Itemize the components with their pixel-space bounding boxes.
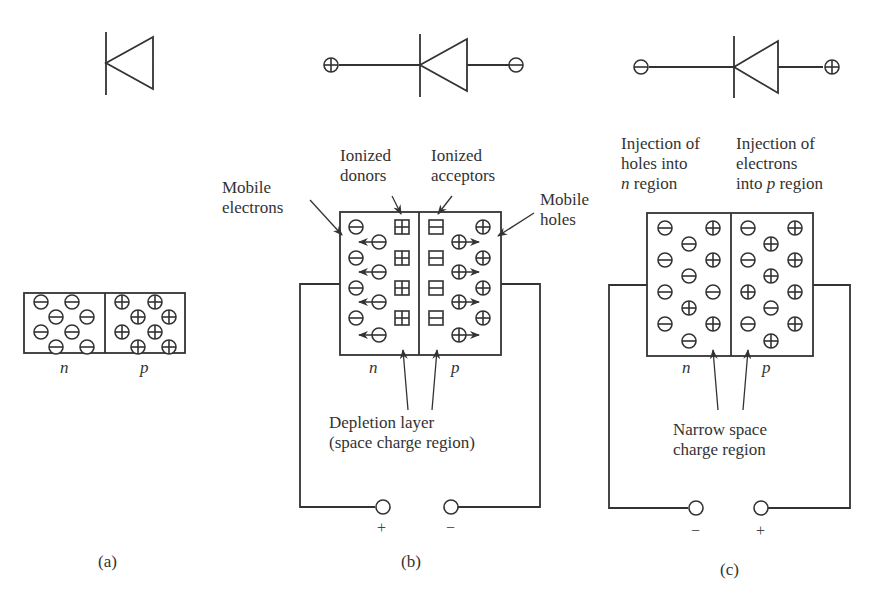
caption-c: (c) (720, 560, 739, 580)
p-region-label-c: p (762, 358, 771, 378)
ionized-acceptors-label: Ionized acceptors (431, 146, 495, 186)
negative-terminal-icon (509, 58, 523, 72)
junction-c (609, 213, 850, 515)
n-region-label-b: n (369, 358, 378, 378)
n-region-label-c: n (682, 358, 691, 378)
junction-a (24, 293, 185, 354)
supply-minus-c: − (691, 522, 700, 540)
caption-a: (a) (98, 552, 117, 572)
diode-symbol-c (649, 36, 823, 98)
mobile-holes-label: Mobile holes (540, 190, 589, 230)
depletion-layer-label: Depletion layer (space charge region) (329, 413, 475, 453)
supply-plus-c: + (756, 522, 765, 540)
junction-b (300, 196, 540, 514)
supply-minus-b: − (446, 519, 455, 537)
diode-symbol-b (339, 34, 510, 97)
supply-plus-b: + (377, 519, 386, 537)
diode-symbol-a (106, 32, 153, 95)
n-region-label-a: n (60, 358, 69, 378)
mobile-electrons-label: Mobile electrons (222, 178, 283, 218)
narrow-space-charge-label: Narrow space charge region (673, 420, 767, 460)
p-region-label-a: p (140, 358, 149, 378)
pn-junction-diagram (0, 0, 879, 603)
ionized-donors-label: Ionized donors (340, 146, 391, 186)
inject-electrons-label: Injection of electrons into p region (736, 134, 823, 194)
p-region-label-b: p (451, 358, 460, 378)
caption-b: (b) (401, 552, 421, 572)
negative-terminal-icon (634, 60, 648, 74)
positive-terminal-icon (825, 60, 839, 74)
inject-holes-label: Injection of holes into n region (621, 134, 700, 194)
positive-terminal-icon (324, 58, 338, 72)
